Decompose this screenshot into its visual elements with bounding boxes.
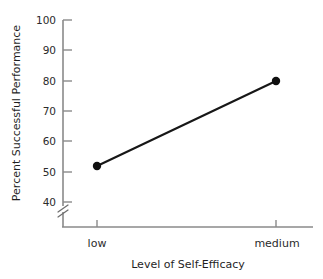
y-tick-label-90: 90	[43, 44, 56, 56]
x-axis-title: Level of Self-Efficacy	[131, 258, 245, 271]
chart-page: 100 90 80 70 60 50 40 low medium Percent…	[0, 0, 323, 279]
data-series-line	[97, 81, 276, 166]
data-point-low	[93, 162, 101, 170]
x-tick-label-low: low	[88, 237, 107, 250]
y-tick-label-50: 50	[43, 166, 56, 178]
y-tick-label-40: 40	[43, 196, 56, 208]
y-axis-title: Percent Successful Performance	[10, 25, 23, 202]
y-tick-label-100: 100	[36, 14, 56, 26]
data-point-medium	[272, 77, 280, 85]
x-tick-label-medium: medium	[254, 237, 299, 250]
line-chart: 100 90 80 70 60 50 40 low medium Percent…	[0, 0, 323, 279]
y-tick-label-60: 60	[43, 135, 56, 147]
y-tick-label-80: 80	[43, 75, 56, 87]
y-tick-label-70: 70	[43, 105, 56, 117]
